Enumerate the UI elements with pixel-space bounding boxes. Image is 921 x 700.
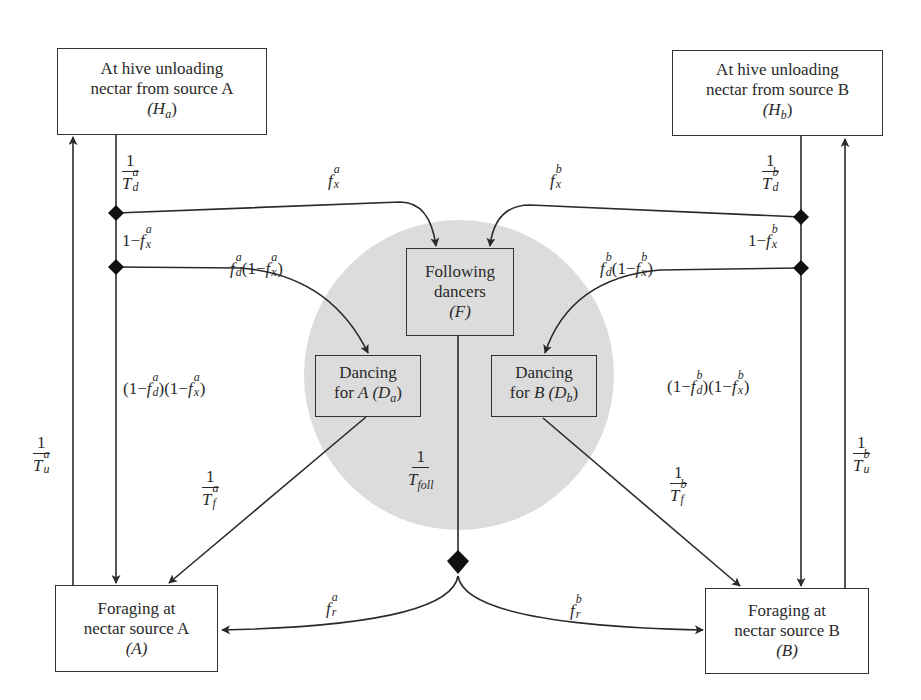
label-rate-tu-b: 1 Tbu (853, 434, 870, 474)
node-hive-a-line2: nectar from source A (90, 79, 233, 99)
node-forage-b-line2: nectar source B (734, 621, 840, 641)
label-fd-b-term: fbd(1−fbx) (600, 260, 653, 277)
label-fx-a: fax (328, 172, 340, 189)
node-forage-a: Foraging at nectar source A (A) (55, 585, 218, 672)
node-following-symbol: (F) (449, 302, 471, 322)
node-dancing-b-line1: Dancing (515, 363, 573, 383)
label-rate-td-b: 1 Tbd (762, 152, 779, 192)
node-dancing-a-line2: for A (Da) (334, 383, 402, 408)
label-one-minus-fx-a: 1−fax (122, 232, 152, 249)
node-forage-a-symbol: (A) (126, 639, 148, 659)
label-rate-tfoll: 1 Tfoll (408, 448, 433, 491)
label-fr-b: fbr (570, 602, 582, 619)
junction-b1-diamond-icon (793, 209, 809, 225)
label-fd-a-term: fad(1−fax) (230, 260, 283, 277)
node-hive-a: At hive unloading nectar from source A (… (57, 48, 267, 135)
node-hive-b-line2: nectar from source B (706, 80, 849, 100)
node-following-dancers: Following dancers (F) (406, 248, 514, 336)
node-following-line2: dancers (434, 282, 486, 302)
node-dancing-b: Dancing for B (Db) (491, 355, 597, 417)
node-dancing-b-line2: for B (Db) (510, 383, 578, 408)
node-dancing-a: Dancing for A (Da) (315, 355, 421, 417)
edge-dancing-a-to-forage-a (169, 417, 366, 583)
label-rate-tf-b: 1 Tbf (670, 464, 687, 504)
label-fx-b: fbx (550, 172, 562, 189)
node-hive-b: At hive unloading nectar from source B (… (672, 50, 883, 136)
node-forage-b-line1: Foraging at (748, 601, 826, 621)
label-fr-a: far (326, 600, 338, 617)
node-forage-a-line2: nectar source A (84, 619, 190, 639)
junction-f-diamond-icon (447, 550, 469, 574)
node-dancing-a-line1: Dancing (339, 363, 397, 383)
junction-b2-diamond-icon (793, 260, 809, 276)
bee-foraging-state-diagram: At hive unloading nectar from source A (… (0, 0, 921, 700)
node-forage-b: Foraging at nectar source B (B) (705, 588, 869, 674)
node-forage-a-line1: Foraging at (98, 599, 176, 619)
label-rate-tu-a: 1 Tau (33, 434, 50, 474)
node-hive-a-line1: At hive unloading (101, 59, 224, 79)
label-stay-a: (1−fad)(1−fax) (123, 380, 205, 397)
label-rate-td-a: 1 Tad (122, 152, 139, 192)
node-following-line1: Following (425, 262, 495, 282)
node-hive-b-line1: At hive unloading (716, 60, 839, 80)
label-rate-tf-a: 1 Taf (202, 468, 219, 508)
node-hive-a-symbol: (Ha) (147, 99, 177, 124)
junction-a2-diamond-icon (108, 259, 124, 275)
node-hive-b-symbol: (Hb) (763, 100, 793, 125)
junction-a1-diamond-icon (108, 205, 124, 221)
label-one-minus-fx-b: 1−fbx (748, 232, 778, 249)
label-stay-b: (1−fbd)(1−fbx) (667, 378, 749, 395)
edge-fr-a-to-forage-a (222, 576, 458, 630)
edge-dancing-b-to-forage-b (543, 418, 740, 586)
node-forage-b-symbol: (B) (776, 641, 798, 661)
